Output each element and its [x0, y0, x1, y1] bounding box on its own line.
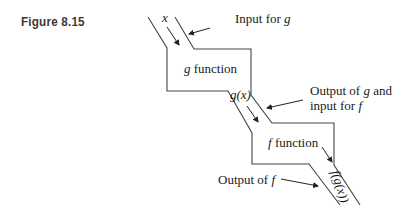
- flow-arrow-middle: [247, 106, 258, 122]
- flow-arrow-input: [167, 27, 179, 45]
- pointer-output-f: [281, 179, 318, 186]
- f-of-g-of-x-label: f(g(x)): [328, 168, 353, 204]
- output-of-g-annotation-line2: input for f: [310, 98, 364, 113]
- g-function-label: g function: [184, 61, 238, 76]
- composition-diagram: x g(x) f(g(x)) g function f function Inp…: [0, 0, 414, 210]
- pointer-output-g: [267, 100, 303, 108]
- f-function-label: f function: [268, 135, 319, 150]
- input-for-g-annotation: Input for g: [235, 11, 291, 26]
- pointer-input-for-g: [189, 28, 210, 34]
- output-of-f-annotation: Output of f: [218, 172, 277, 187]
- g-of-x-label: g(x): [230, 87, 251, 102]
- input-x-label: x: [161, 10, 168, 25]
- flow-arrow-output: [322, 147, 332, 162]
- output-of-g-annotation-line1: Output of g and: [310, 83, 392, 98]
